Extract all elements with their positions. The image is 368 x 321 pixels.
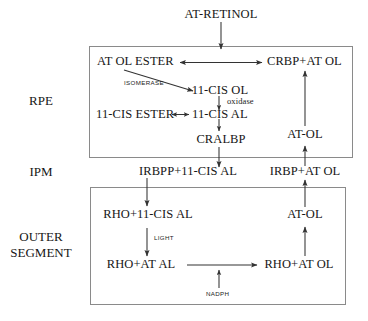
node-11-cis-al: 11-CIS AL [192,108,248,121]
enzyme-label-oxidase: oxidase [227,96,254,106]
node-irbp-at-ol: IRBP+AT OL [270,165,341,178]
node-irbpp-11-cis-al: IRBPP+11-CIS AL [139,165,237,178]
enzyme-label-nadph: NADPH [206,290,229,297]
compartment-label-rpe: RPE [29,94,53,109]
compartment-label-outer-segment-line1: OUTER [19,230,62,245]
compartment-label-ipm: IPM [29,165,52,180]
node-rho-at-al: RHO+AT AL [107,258,176,271]
node-at-retinol: AT-RETINOL [185,8,258,21]
compartment-label-outer-segment-line2: SEGMENT [10,246,71,261]
node-crbp-at-ol: CRBP+AT OL [267,55,342,68]
node-at-ol-rpe: AT-OL [287,128,322,141]
pathway-diagram: RPE IPM OUTER SEGMENT AT-RETINOL AT OL E… [0,0,368,321]
outer-segment-compartment-box [90,187,346,305]
enzyme-label-light: LIGHT [154,234,174,241]
node-cralbp: CRALBP [196,133,245,146]
enzyme-label-isomerase: ISOMERASE [124,79,164,86]
node-at-ol-ester: AT OL ESTER [97,55,174,68]
node-11-cis-ester: 11-CIS ESTER [96,108,174,121]
node-at-ol-outer-segment: AT-OL [287,208,322,221]
node-rho-11-cis-al: RHO+11-CIS AL [103,208,193,221]
node-rho-at-ol: RHO+AT OL [264,258,333,271]
